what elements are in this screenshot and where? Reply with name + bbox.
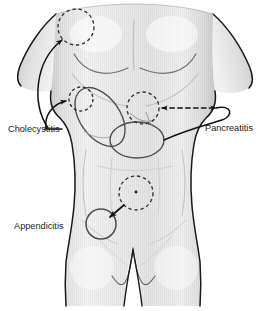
chest-highlight-left <box>70 16 122 52</box>
torso-referred-pain-diagram: Cholecystitis Pancreatitis Appendicitis <box>0 0 273 311</box>
diagram-canvas: Cholecystitis Pancreatitis Appendicitis <box>0 0 273 311</box>
thigh-highlight-right <box>154 246 198 290</box>
umbilicus-dot-icon <box>135 191 138 194</box>
label-appendicitis: Appendicitis <box>14 221 64 231</box>
left-shoulder-stub <box>18 14 57 92</box>
chest-highlight-right <box>146 16 198 52</box>
thigh-highlight-left <box>70 246 114 290</box>
label-cholecystitis: Cholecystitis <box>8 124 60 134</box>
right-shoulder-stub <box>212 14 252 93</box>
label-pancreatitis: Pancreatitis <box>205 123 253 133</box>
